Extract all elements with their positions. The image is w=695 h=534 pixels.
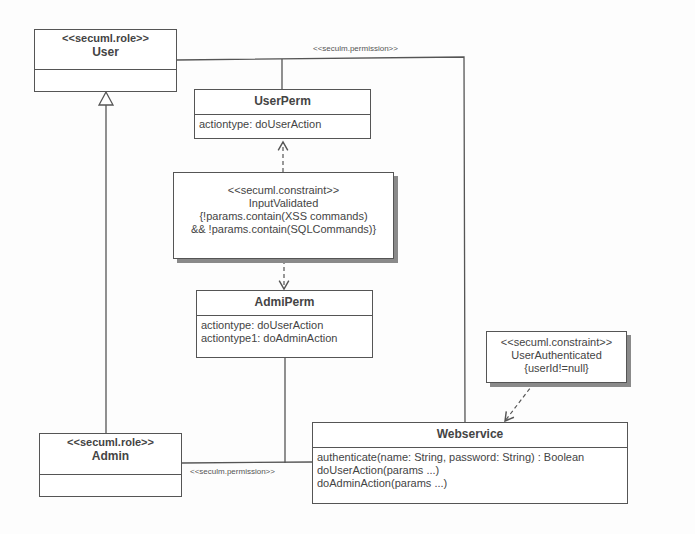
webservice-class-name: Webservice: [313, 423, 627, 442]
input-validated-name: InputValidated: [174, 197, 393, 210]
bottom-permission-label: <<seculm.permission>>: [190, 467, 275, 476]
uml-class-diagram: <<secuml.role>> User UserPerm actiontype…: [0, 0, 695, 534]
user-authenticated-name: UserAuthenticated: [487, 349, 626, 362]
userperm-class-name: UserPerm: [195, 90, 370, 109]
admiperm-attribute-1: actiontype: doUserAction: [201, 319, 368, 332]
constraint-user-authenticated[interactable]: <<secuml.constraint>> UserAuthenticated …: [486, 331, 627, 383]
admin-class-name: Admin: [40, 449, 181, 464]
top-permission-label: <<seculm.permission>>: [313, 44, 398, 53]
class-admiperm[interactable]: AdmiPerm actiontype: doUserAction action…: [196, 290, 373, 358]
webservice-operation-authenticate: authenticate(name: String, password: Str…: [317, 451, 623, 464]
input-validated-line-1: {!params.contain(XSS commands): [174, 210, 393, 223]
user-authenticated-stereotype: <<secuml.constraint>>: [487, 336, 626, 349]
class-admin[interactable]: <<secuml.role>> Admin: [39, 433, 182, 497]
admiperm-class-name: AdmiPerm: [197, 291, 372, 310]
class-webservice[interactable]: Webservice authenticate(name: String, pa…: [312, 422, 628, 504]
user-class-name: User: [35, 45, 176, 60]
constraint-input-validated[interactable]: <<secuml.constraint>> InputValidated {!p…: [173, 172, 394, 259]
input-validated-stereotype: <<secuml.constraint>>: [174, 184, 393, 197]
webservice-operation-doadminaction: doAdminAction(params ...): [317, 477, 623, 490]
userperm-attribute: actiontype: doUserAction: [199, 118, 366, 131]
admiperm-attribute-2: actiontype1: doAdminAction: [201, 332, 368, 345]
bottom-permission-association: [182, 462, 313, 463]
admin-stereotype: <<secuml.role>>: [40, 434, 181, 449]
webservice-operation-douseraction: doUserAction(params ...): [317, 464, 623, 477]
dependency-to-webservice: [505, 383, 534, 421]
user-stereotype: <<secuml.role>>: [35, 30, 176, 45]
generalization-arrowhead: [99, 92, 113, 105]
user-authenticated-line-1: {userId!=null}: [487, 362, 626, 375]
class-userperm[interactable]: UserPerm actiontype: doUserAction: [194, 89, 371, 139]
class-user[interactable]: <<secuml.role>> User: [34, 29, 177, 92]
input-validated-line-2: && !params.contain(SQLCommands)}: [174, 223, 393, 236]
